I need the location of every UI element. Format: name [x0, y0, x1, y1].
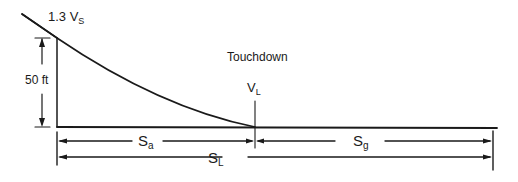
total-distance-left-arrow-icon: [58, 155, 67, 160]
total-distance-label: SL: [208, 149, 224, 168]
landing-distance-diagram: 1.3 VS 50 ft Touchdown VL Sa Sg SL: [0, 0, 518, 182]
ground-line: [57, 127, 497, 128]
ground-distance-left-arrow-icon: [256, 139, 264, 144]
height-arrow-down-icon: [39, 118, 45, 127]
landing-speed-label: VL: [247, 80, 261, 97]
air-distance-left-arrow-icon: [58, 139, 67, 144]
total-distance-right-arrow-icon: [483, 155, 492, 160]
touchdown-label: Touchdown: [227, 50, 288, 64]
air-distance-label: Sa: [138, 132, 154, 151]
initial-speed-label: 1.3 VS: [48, 9, 84, 26]
air-distance-right-arrow-icon: [246, 139, 254, 144]
ground-distance-label: Sg: [353, 132, 369, 151]
height-arrow-up-icon: [39, 38, 45, 47]
obstacle-height-label: 50 ft: [25, 73, 49, 87]
ground-distance-right-arrow-icon: [483, 139, 492, 144]
